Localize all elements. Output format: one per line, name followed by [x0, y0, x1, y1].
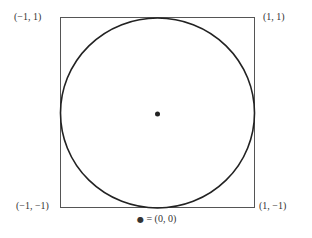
center-point [155, 112, 160, 117]
legend-text: = (0, 0) [146, 213, 176, 224]
label-bottom-left: (−1, −1) [16, 200, 49, 211]
label-top-right: (1, 1) [263, 11, 285, 22]
legend-dot-icon: ● [137, 215, 144, 224]
label-top-left: (−1, 1) [14, 11, 41, 22]
label-bottom-right: (1, −1) [259, 200, 286, 211]
legend: ● = (0, 0) [137, 213, 176, 224]
